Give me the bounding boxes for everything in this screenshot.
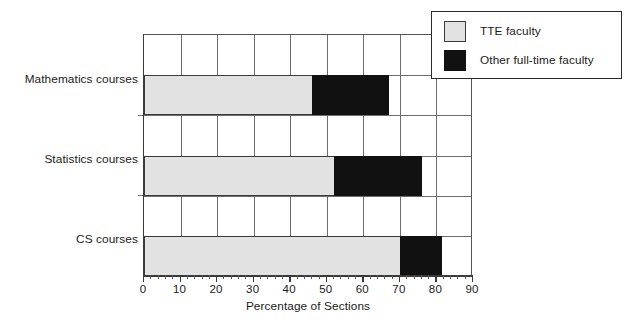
- x-minor-tick: [340, 275, 341, 279]
- x-tick-70: [399, 275, 400, 282]
- x-minor-tick: [465, 275, 466, 279]
- x-minor-tick: [158, 275, 159, 279]
- x-tick-60: [362, 275, 363, 282]
- bar-cs-courses: [144, 236, 471, 276]
- x-tick-label-50: 50: [311, 283, 341, 295]
- x-minor-tick: [406, 275, 407, 279]
- bar-statistics-courses: [144, 156, 471, 196]
- bar-chart: 0 10 20 30 40 50 60 70 80 90 Percentage …: [0, 0, 630, 325]
- x-minor-tick: [238, 275, 239, 279]
- x-minor-tick: [355, 275, 356, 279]
- x-minor-tick: [187, 275, 188, 279]
- x-minor-tick: [194, 275, 195, 279]
- x-minor-tick: [202, 275, 203, 279]
- x-minor-tick: [304, 275, 305, 279]
- x-minor-tick: [245, 275, 246, 279]
- y-tick-band-4: [138, 195, 143, 196]
- x-minor-tick: [165, 275, 166, 279]
- x-tick-label-10: 10: [165, 283, 195, 295]
- y-label-statistics-courses: Statistics courses: [0, 152, 138, 166]
- x-minor-tick: [297, 275, 298, 279]
- x-minor-tick: [377, 275, 378, 279]
- x-minor-tick: [457, 275, 458, 279]
- x-tick-50: [326, 275, 327, 282]
- x-minor-tick: [231, 275, 232, 279]
- x-minor-tick: [333, 275, 334, 279]
- bar-segment-other-cs: [400, 236, 442, 276]
- y-label-mathematics-courses: Mathematics courses: [0, 72, 138, 86]
- x-minor-tick: [450, 275, 451, 279]
- y-label-cs-courses: CS courses: [0, 232, 138, 246]
- x-minor-tick: [172, 275, 173, 279]
- x-tick-label-0: 0: [128, 283, 158, 295]
- x-tick-90: [472, 275, 473, 282]
- x-minor-tick: [260, 275, 261, 279]
- bar-segment-other-statistics: [334, 156, 422, 196]
- legend: TTE faculty Other full-time faculty: [431, 11, 622, 79]
- x-minor-tick: [209, 275, 210, 279]
- legend-swatch-tte-icon: [444, 21, 466, 42]
- x-tick-80: [435, 275, 436, 282]
- x-axis-line: [143, 275, 473, 277]
- bar-segment-other-mathematics: [312, 75, 389, 115]
- bar-segment-tte-statistics: [144, 156, 334, 196]
- x-tick-0: [143, 275, 144, 282]
- bar-segment-tte-mathematics: [144, 75, 312, 115]
- x-axis-title: Percentage of Sections: [143, 299, 473, 313]
- gridline-horizontal-4: [144, 196, 471, 197]
- legend-label-tte-faculty: TTE faculty: [480, 24, 541, 38]
- y-tick-band-2: [138, 115, 143, 116]
- x-minor-tick: [348, 275, 349, 279]
- x-tick-label-40: 40: [274, 283, 304, 295]
- x-minor-tick: [392, 275, 393, 279]
- x-tick-20: [216, 275, 217, 282]
- x-minor-tick: [267, 275, 268, 279]
- x-minor-tick: [384, 275, 385, 279]
- x-minor-tick: [319, 275, 320, 279]
- bar-segment-tte-cs: [144, 236, 400, 276]
- x-tick-label-70: 70: [384, 283, 414, 295]
- legend-label-other-full-time-faculty: Other full-time faculty: [480, 53, 594, 67]
- x-minor-tick: [428, 275, 429, 279]
- x-tick-40: [289, 275, 290, 282]
- x-minor-tick: [443, 275, 444, 279]
- x-minor-tick: [223, 275, 224, 279]
- x-minor-tick: [150, 275, 151, 279]
- x-minor-tick: [414, 275, 415, 279]
- x-tick-label-30: 30: [238, 283, 268, 295]
- x-tick-label-60: 60: [347, 283, 377, 295]
- x-minor-tick: [311, 275, 312, 279]
- x-tick-label-90: 90: [457, 283, 487, 295]
- x-tick-10: [180, 275, 181, 282]
- bar-mathematics-courses: [144, 75, 471, 115]
- gridline-horizontal-2: [144, 115, 471, 116]
- x-tick-30: [253, 275, 254, 282]
- x-minor-tick: [275, 275, 276, 279]
- x-tick-label-20: 20: [201, 283, 231, 295]
- x-tick-label-80: 80: [420, 283, 450, 295]
- plot-area: [143, 34, 472, 275]
- x-minor-tick: [370, 275, 371, 279]
- legend-swatch-other-icon: [444, 50, 466, 71]
- x-minor-tick: [282, 275, 283, 279]
- x-minor-tick: [421, 275, 422, 279]
